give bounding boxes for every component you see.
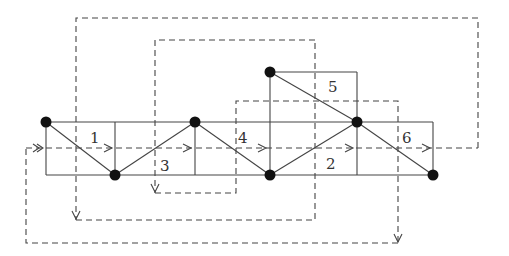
cell-label-6: 6 [402,129,412,147]
cell-label-5: 5 [328,78,338,96]
node [190,117,201,128]
cell-label-3: 3 [160,157,170,175]
node [265,67,276,78]
arrowheads [33,144,430,242]
cell-label-1: 1 [90,129,100,147]
arrow-down-icon [72,211,80,219]
node [428,170,439,181]
diagram-canvas: 1 2 3 4 5 6 [0,0,509,256]
node [110,170,121,181]
cell-label-2: 2 [326,155,336,173]
node [41,117,52,128]
cell-label-4: 4 [238,129,248,147]
solid-edges [46,72,433,175]
node [265,170,276,181]
node [352,117,363,128]
